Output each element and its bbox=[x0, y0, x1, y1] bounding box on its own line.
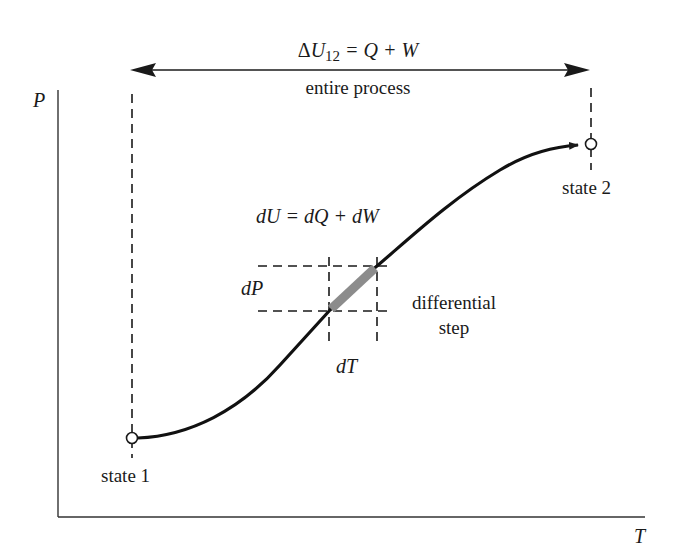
state1-label: state 1 bbox=[101, 466, 150, 485]
axis-y-label: P bbox=[33, 90, 45, 110]
dt-label: dT bbox=[336, 356, 357, 376]
differential-equation: dU = dQ + dW bbox=[256, 206, 379, 226]
state2-point bbox=[586, 139, 597, 150]
differential-step-label-line2: step bbox=[439, 318, 470, 337]
state1-point bbox=[127, 433, 138, 444]
dp-label: dP bbox=[241, 278, 263, 298]
differential-segment bbox=[331, 268, 375, 309]
total-energy-equation: ΔU12 = Q + W bbox=[298, 40, 418, 64]
axis-x-label: T bbox=[634, 526, 645, 546]
state2-label: state 2 bbox=[562, 178, 611, 197]
u-symbol: U bbox=[311, 39, 325, 61]
entire-process-label: entire process bbox=[306, 78, 411, 97]
process-curve bbox=[138, 145, 578, 438]
delta-symbol: Δ bbox=[298, 39, 311, 61]
differential-step-label-line1: differential bbox=[412, 293, 496, 312]
subscript-12: 12 bbox=[325, 48, 340, 64]
equation-rhs: = Q + W bbox=[340, 39, 418, 61]
